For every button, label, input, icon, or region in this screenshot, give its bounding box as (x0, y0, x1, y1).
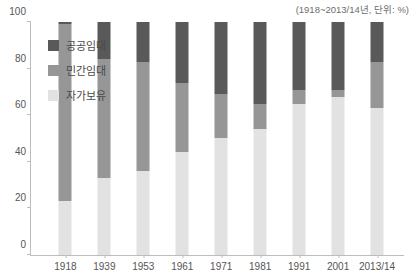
bar-stack (293, 22, 306, 255)
x-axis-tick-label: 1961 (171, 261, 193, 272)
bar-segment[interactable] (98, 178, 111, 255)
x-axis-tick-label: 1981 (249, 261, 271, 272)
y-axis-tick-mark (27, 114, 31, 115)
legend-swatch-icon (48, 90, 59, 101)
bar-segment[interactable] (254, 104, 267, 130)
bar-segment[interactable] (137, 62, 150, 172)
bar-segment[interactable] (176, 22, 189, 83)
bar-stack (371, 22, 384, 255)
bar-segment[interactable] (332, 90, 345, 97)
y-axis-tick-label: 100 (9, 6, 26, 17)
bar-stack (254, 22, 267, 255)
bar-segment[interactable] (254, 22, 267, 104)
legend-swatch-icon (48, 40, 59, 51)
bar-segment[interactable] (293, 22, 306, 90)
bar-segment[interactable] (293, 90, 306, 104)
y-axis-tick-label: 60 (15, 99, 26, 110)
x-axis-tick-mark (143, 255, 144, 258)
bar-segment[interactable] (215, 138, 228, 255)
x-axis-tick-mark (65, 255, 66, 258)
bar-segment[interactable] (59, 201, 72, 255)
bar-segment[interactable] (254, 129, 267, 255)
x-axis-tick-mark (260, 255, 261, 258)
bar-group[interactable]: 2001 (332, 22, 345, 255)
y-axis-tick-mark (27, 254, 31, 255)
bar-stack (332, 22, 345, 255)
legend-item-label: 자가보유 (66, 87, 106, 103)
y-axis-tick-mark (27, 68, 31, 69)
bar-stack (176, 22, 189, 255)
bar-segment[interactable] (137, 22, 150, 62)
bar-segment[interactable] (371, 62, 384, 109)
chart-unit-note: (1918~2013/14년, 단위: %) (296, 2, 409, 16)
bar-segment[interactable] (332, 22, 345, 90)
x-axis-tick-mark (299, 255, 300, 258)
x-axis-tick-label: 1939 (93, 261, 115, 272)
legend-item-public_rental[interactable]: 공공임대 (48, 37, 106, 53)
legend-swatch-icon (48, 65, 59, 76)
bar-stack (137, 22, 150, 255)
legend-item-label: 공공임대 (66, 37, 106, 53)
bar-segment[interactable] (176, 152, 189, 255)
bar-group[interactable]: 1953 (137, 22, 150, 255)
x-axis-tick-mark (182, 255, 183, 258)
x-axis-tick-label: 1918 (54, 261, 76, 272)
bar-segment[interactable] (215, 94, 228, 138)
bar-segment[interactable] (176, 83, 189, 153)
x-axis-tick-mark (338, 255, 339, 258)
bar-group[interactable]: 1961 (176, 22, 189, 255)
bar-group[interactable]: 2013/14 (371, 22, 384, 255)
bar-segment[interactable] (137, 171, 150, 255)
x-axis-tick-label: 2001 (327, 261, 349, 272)
y-axis-tick-mark (27, 21, 31, 22)
y-axis-tick-label: 0 (20, 239, 26, 250)
x-axis-tick-label: 1953 (132, 261, 154, 272)
y-axis-tick-mark (27, 161, 31, 162)
chart-legend: 공공임대민간임대자가보유 (48, 37, 106, 103)
x-axis-tick-mark (221, 255, 222, 258)
legend-item-private_rental[interactable]: 민간임대 (48, 62, 106, 78)
legend-item-label: 민간임대 (66, 62, 106, 78)
x-axis-tick-label: 2013/14 (359, 261, 395, 272)
bar-segment[interactable] (293, 104, 306, 255)
bar-segment[interactable] (332, 97, 345, 255)
legend-item-owner_occupied[interactable]: 자가보유 (48, 87, 106, 103)
bar-group[interactable]: 1991 (293, 22, 306, 255)
bar-segment[interactable] (215, 22, 228, 94)
x-axis-tick-mark (377, 255, 378, 258)
bar-segment[interactable] (371, 22, 384, 62)
x-axis-tick-label: 1991 (288, 261, 310, 272)
y-axis-tick-mark (27, 207, 31, 208)
bar-group[interactable]: 1971 (215, 22, 228, 255)
bar-group[interactable]: 1981 (254, 22, 267, 255)
bar-stack (215, 22, 228, 255)
x-axis-tick-label: 1971 (210, 261, 232, 272)
y-axis-tick-label: 80 (15, 52, 26, 63)
x-axis-tick-mark (104, 255, 105, 258)
y-axis-tick-label: 40 (15, 145, 26, 156)
bar-segment[interactable] (371, 108, 384, 255)
stacked-bar-chart: (1918~2013/14년, 단위: %) 02040608010019181… (0, 0, 415, 277)
y-axis-tick-label: 20 (15, 192, 26, 203)
